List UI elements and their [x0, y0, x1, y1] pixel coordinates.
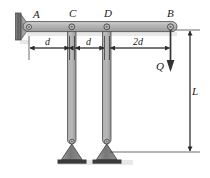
triangular-pin-support-icon-d [93, 144, 122, 164]
dimension-a-to-c: d [30, 36, 69, 48]
label-point-b: B [167, 7, 174, 19]
label-dim-cd: d [86, 36, 92, 47]
dimension-c-to-d: d [76, 36, 105, 48]
load-arrow-q [167, 30, 175, 72]
pin-joint-icon-b [168, 24, 174, 30]
label-load-q: Q [156, 60, 164, 72]
pin-joint-icon-c-lower [69, 139, 74, 144]
label-point-c: C [69, 7, 77, 19]
label-point-a: A [32, 8, 40, 20]
engineering-diagram: A C D B d d 2d [0, 0, 210, 178]
dimension-d-to-b: 2d [111, 36, 170, 48]
horizontal-beam [23, 22, 177, 32]
label-dim-db: 2d [133, 36, 144, 47]
pin-joint-icon-d [104, 24, 110, 30]
dimension-extension-lines [29, 33, 171, 60]
drop-shadows [20, 32, 177, 165]
triangular-pin-support-icon-c [58, 144, 87, 164]
label-dim-ac: d [45, 36, 51, 47]
pin-joint-icon-c [69, 24, 75, 30]
label-point-d: D [103, 7, 112, 19]
label-dim-l: L [191, 85, 198, 97]
pin-joint-icon-a [26, 24, 31, 29]
pin-joint-icon-d-lower [104, 139, 109, 144]
